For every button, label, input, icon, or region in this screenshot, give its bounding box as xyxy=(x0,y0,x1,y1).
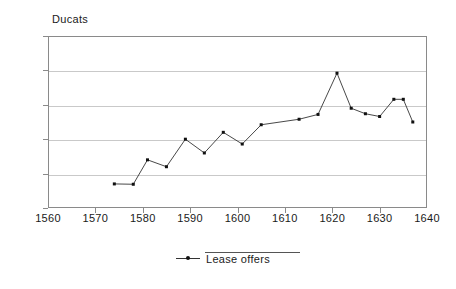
data-point xyxy=(260,123,263,126)
data-point xyxy=(203,151,206,154)
data-point xyxy=(146,158,149,161)
data-point xyxy=(132,183,135,186)
x-tick-label-1630: 1630 xyxy=(367,212,393,224)
data-point xyxy=(241,143,244,146)
y-tick-mark-0 xyxy=(43,208,48,209)
x-tick-label-1570: 1570 xyxy=(83,212,109,224)
x-tick-mark-1610 xyxy=(285,208,286,213)
x-tick-mark-1630 xyxy=(380,208,381,213)
data-point xyxy=(317,113,320,116)
legend-label-lease-offers: Lease offers xyxy=(206,253,270,265)
data-point xyxy=(350,107,353,110)
chart-legend: Lease offers xyxy=(176,253,270,265)
chart-container: Ducats 05001000150020002500 156015701580… xyxy=(0,0,456,289)
y-axis-title: Ducats xyxy=(52,13,88,25)
x-tick-label-1600: 1600 xyxy=(225,212,251,224)
x-tick-label-1590: 1590 xyxy=(177,212,203,224)
x-tick-label-1620: 1620 xyxy=(319,212,345,224)
x-tick-mark-1580 xyxy=(143,208,144,213)
data-point xyxy=(392,98,395,101)
data-point xyxy=(335,72,338,75)
data-point xyxy=(411,121,414,124)
x-tick-label-1580: 1580 xyxy=(130,212,156,224)
data-point xyxy=(165,165,168,168)
data-point xyxy=(402,98,405,101)
data-point xyxy=(378,115,381,118)
x-tick-mark-1570 xyxy=(95,208,96,213)
data-series-layer xyxy=(48,36,427,208)
x-tick-mark-1590 xyxy=(190,208,191,213)
x-tick-label-1610: 1610 xyxy=(272,212,298,224)
x-tick-label-1560: 1560 xyxy=(35,212,61,224)
x-tick-mark-1600 xyxy=(238,208,239,213)
x-tick-label-1640: 1640 xyxy=(414,212,440,224)
legend-line-marker-icon xyxy=(176,254,200,264)
data-point xyxy=(184,138,187,141)
data-point xyxy=(222,131,225,134)
data-point xyxy=(298,118,301,121)
series-line-0 xyxy=(114,73,412,184)
data-point xyxy=(113,182,116,185)
x-tick-mark-1620 xyxy=(332,208,333,213)
data-point xyxy=(364,112,367,115)
